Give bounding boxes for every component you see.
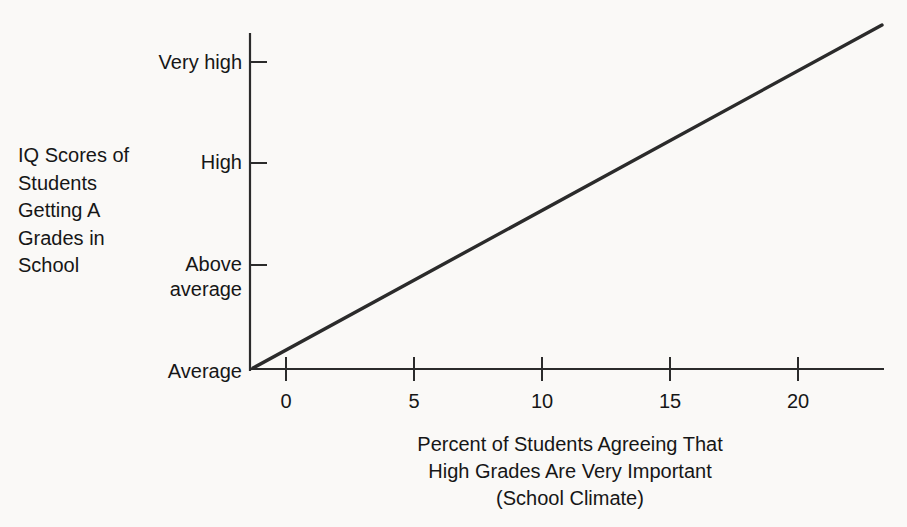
x-tick-label-20: 20 bbox=[776, 390, 820, 413]
x-axis-title-line1: Percent of Students Agreeing That bbox=[268, 431, 872, 458]
chart-figure: Very high High Above average Average 0 5… bbox=[0, 0, 907, 527]
x-tick-label-15: 15 bbox=[648, 390, 692, 413]
x-axis-title-line3: (School Climate) bbox=[268, 485, 872, 512]
x-tick-label-10: 10 bbox=[520, 390, 564, 413]
y-tick-label-very-high: Very high bbox=[40, 50, 242, 75]
y-axis-title-line3: Getting A bbox=[18, 197, 218, 225]
y-tick-label-above-average-line2: average bbox=[40, 277, 242, 302]
x-tick-label-5: 5 bbox=[392, 390, 436, 413]
y-axis-title-line1: IQ Scores of bbox=[18, 142, 218, 170]
x-axis-title-line2: High Grades Are Very Important bbox=[268, 458, 872, 485]
y-tick-label-average: Average bbox=[40, 359, 242, 384]
x-axis-title: Percent of Students Agreeing That High G… bbox=[268, 431, 872, 512]
y-axis-title: IQ Scores of Students Getting A Grades i… bbox=[18, 142, 218, 280]
y-axis-title-line5: School bbox=[18, 252, 218, 280]
x-tick-label-0: 0 bbox=[264, 390, 308, 413]
relationship-line bbox=[253, 25, 882, 368]
y-axis-title-line2: Students bbox=[18, 170, 218, 198]
y-axis-title-line4: Grades in bbox=[18, 225, 218, 253]
